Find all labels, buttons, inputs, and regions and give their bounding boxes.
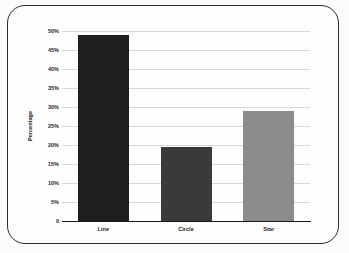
- y-axis-tick-label: 45%: [48, 47, 59, 53]
- y-axis-tick-label: 5%: [51, 199, 59, 205]
- x-axis-tick-label: Line: [98, 226, 110, 232]
- chart-figure: Percentage 05%10%15%20%25%30%35%40%45%50…: [0, 0, 349, 253]
- x-axis-tick-label: Circle: [178, 226, 194, 232]
- x-axis-tick-label: Star: [263, 226, 274, 232]
- y-axis-tick-label: 0: [56, 218, 59, 224]
- y-axis-tick-labels: 05%10%15%20%25%30%35%40%45%50%: [40, 31, 59, 221]
- gridline: [62, 31, 310, 32]
- y-axis-tick-label: 15%: [48, 161, 59, 167]
- x-axis-line: [62, 221, 311, 222]
- bar-line: [78, 35, 129, 221]
- y-axis-tick-label: 10%: [48, 180, 59, 186]
- y-axis-tick-label: 30%: [48, 104, 59, 110]
- y-axis-tick-label: 25%: [48, 123, 59, 129]
- plot-area: [62, 31, 310, 221]
- bar-star: [243, 111, 294, 221]
- y-axis-tick-label: 40%: [48, 66, 59, 72]
- y-axis-tick-label: 20%: [48, 142, 59, 148]
- y-axis-tick-label: 50%: [48, 28, 59, 34]
- y-axis-title: Percentage: [27, 111, 33, 141]
- bar-circle: [161, 147, 212, 221]
- y-axis-tick-label: 35%: [48, 85, 59, 91]
